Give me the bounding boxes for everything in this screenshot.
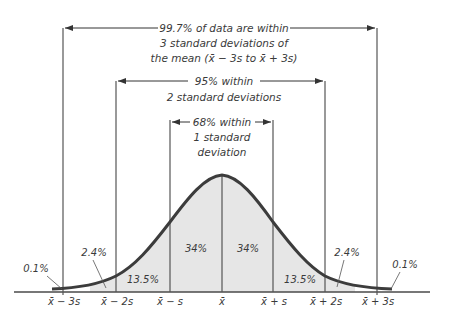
- three-sd-line-2: 3 standard deviations of: [160, 37, 290, 49]
- two-sd-line-2: 2 standard deviations: [167, 91, 282, 103]
- region-label-left-tail: 0.1%: [23, 263, 48, 274]
- three-sd-line-3: the mean (x̄ − 3s to x̄ + 3s): [151, 52, 298, 64]
- axis-label-plus-1s: x̄ + s: [260, 296, 287, 307]
- one-sd-line-3: deviation: [198, 146, 247, 158]
- axis-labels: x̄ − 3s x̄ − 2s x̄ − s x̄ x̄ + s x̄ + 2s…: [47, 296, 394, 307]
- normal-distribution-diagram: 99.7% of data are within 3 standard devi…: [0, 0, 453, 322]
- region-label-right-2-3: 2.4%: [334, 247, 359, 258]
- axis-label-minus-1s: x̄ − s: [156, 296, 183, 307]
- bracket-one-sd: 68% within 1 standard deviation: [172, 116, 271, 158]
- one-sd-line-2: 1 standard: [194, 131, 251, 143]
- axis-label-minus-3s: x̄ − 3s: [47, 296, 80, 307]
- region-label-right-0-1: 34%: [237, 243, 259, 254]
- one-sd-line-1: 68% within: [193, 116, 252, 128]
- three-sd-line-1: 99.7% of data are within: [159, 22, 289, 34]
- region-label-left-0-1: 34%: [185, 243, 207, 254]
- bracket-three-sd: 99.7% of data are within 3 standard devi…: [65, 22, 375, 64]
- axis-label-plus-2s: x̄ + 2s: [309, 296, 342, 307]
- bracket-two-sd: 95% within 2 standard deviations: [118, 75, 323, 103]
- axis-label-minus-2s: x̄ − 2s: [100, 296, 133, 307]
- two-sd-line-1: 95% within: [195, 75, 254, 87]
- region-label-left-2-3: 2.4%: [81, 247, 106, 258]
- region-label-right-tail: 0.1%: [392, 259, 417, 270]
- region-label-right-1-2: 13.5%: [284, 274, 316, 285]
- region-label-left-1-2: 13.5%: [127, 274, 159, 285]
- axis-label-plus-3s: x̄ + 3s: [361, 296, 394, 307]
- axis-label-mean: x̄: [218, 296, 225, 307]
